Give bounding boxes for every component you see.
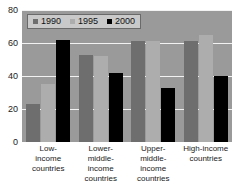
y-tick-label: 0 [13, 138, 18, 147]
legend-label: 2000 [115, 17, 135, 26]
bar-group [127, 10, 180, 142]
x-axis-labels: Low-incomecountriesLower-middle-incomeco… [22, 144, 232, 184]
bar [79, 55, 93, 142]
legend-item-1995: 1995 [70, 17, 98, 26]
x-axis-label: Upper-middle-incomecountries [127, 144, 180, 184]
bar [109, 73, 123, 142]
x-axis-label: High-incomecountries [180, 144, 233, 184]
legend-item-2000: 2000 [107, 17, 135, 26]
bar [41, 84, 55, 142]
legend-label: 1995 [78, 17, 98, 26]
legend-swatch-icon [107, 19, 112, 24]
bar [199, 35, 213, 142]
legend: 1990 1995 2000 [27, 14, 141, 29]
y-tick-label: 80 [8, 6, 18, 15]
plot-area [22, 10, 232, 142]
bar-group [75, 10, 128, 142]
legend-swatch-icon [70, 19, 75, 24]
y-tick-label: 20 [8, 105, 18, 114]
x-axis-label: Lower-middle-incomecountries [75, 144, 128, 184]
bar [131, 41, 145, 142]
x-axis-label: Low-incomecountries [22, 144, 75, 184]
bar [94, 56, 108, 142]
bar [146, 41, 160, 142]
legend-swatch-icon [33, 19, 38, 24]
bar [161, 88, 175, 142]
bar-groups [22, 10, 232, 142]
bar [56, 40, 70, 142]
bar [184, 41, 198, 142]
y-axis: 80 60 40 20 0 [0, 0, 22, 193]
bar-chart: 80 60 40 20 0 1990 1995 2000 Low-incomec… [0, 0, 236, 193]
bar-group [180, 10, 233, 142]
legend-label: 1990 [41, 17, 61, 26]
bar [26, 104, 40, 142]
y-tick-label: 40 [8, 72, 18, 81]
y-tick-label: 60 [8, 39, 18, 48]
legend-item-1990: 1990 [33, 17, 61, 26]
bar-group [22, 10, 75, 142]
bar [214, 76, 228, 142]
